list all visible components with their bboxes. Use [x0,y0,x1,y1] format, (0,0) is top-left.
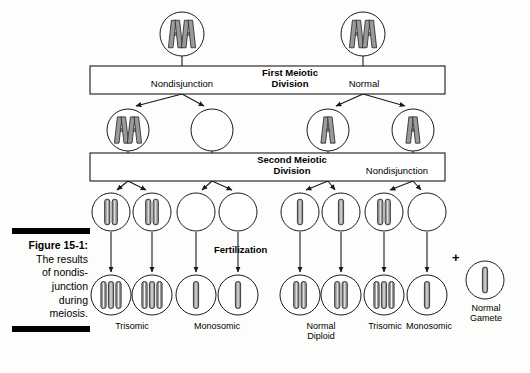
figure-container: First Meiotic Division Second Meiotic Di… [0,0,530,373]
figure-caption-text: Figure 15-1: The results of nondis- junc… [12,234,90,326]
arrow-m1-split-a [136,94,182,106]
cell-g5 [281,193,319,231]
centromere [120,129,123,132]
second-meiotic-division-title: Second Meiotic Division [238,155,346,176]
cell-membrane [160,12,204,56]
first-division-line2: Division [272,78,309,89]
arrow-gamete-split-3b [413,181,421,190]
cell-z1 [91,275,131,315]
outcome-label: Trisomic [115,321,149,331]
figure-caption-block: Figure 15-1: The results of nondis- junc… [12,228,90,332]
cell-m1-c4 [392,109,434,151]
arrow-gamete-split-2a [306,181,328,190]
arrow-m1-split-b [182,94,204,106]
cell-g3 [177,193,215,231]
plus-sign: + [452,251,460,266]
outcome-normal-diploid: Normal Diploid [288,321,354,341]
centromere [187,33,190,36]
first-division-line1: First Meiotic [262,67,318,78]
first-meiotic-division-title: First Meiotic Division [240,68,340,89]
cell-g7 [365,193,403,231]
cell-g1 [92,193,130,231]
normal-gamete-line2: Gamete [470,313,502,323]
caption-line-5: meiosis. [12,307,88,321]
cell-membrane [107,109,149,151]
label-fertilization: Fertilization [214,245,267,256]
cell-z5 [280,275,320,315]
cell-membrane [365,193,403,231]
cell-m1-c3 [307,109,349,151]
outcome-label: Monosomic [406,321,452,331]
label-normal-first: Normal [330,79,398,90]
second-division-line1: Second Meiotic [257,154,327,165]
figure-number: Figure 15-1: [12,239,88,253]
cell-z4 [218,275,258,315]
cell-membrane [92,193,130,231]
caption-line-2: of nondis- [12,266,88,280]
cell-membrane [341,12,385,56]
arrow-gamete-split-3a [390,181,413,190]
outcome-label: Normal [306,321,335,331]
cell-g6 [322,193,360,231]
centromere [133,129,136,132]
cell-z2 [132,275,172,315]
cell-normal-gamete [466,261,504,299]
arrow-m1-split-d [363,94,405,106]
centromere [412,129,415,132]
second-division-line2: Division [274,165,311,176]
caption-line-3: junction [12,280,88,294]
outcome-trisomic-left: Trisomic [99,321,165,331]
cell-membrane [133,193,171,231]
cell-z6 [321,275,361,315]
cell-g8 [408,193,446,231]
normal-gamete-line1: Normal [471,303,500,313]
cell-membrane [219,193,257,231]
cell-membrane [321,275,361,315]
arrow-gamete-split-0a [117,181,128,190]
centromere [327,129,330,132]
cell-membrane [177,193,215,231]
outcome-monosomic-right: Monosomic [396,321,462,331]
cell-parent-right [341,12,385,56]
arrow-gamete-split-2b [328,181,335,190]
label-nondisjunction-second: Nondisjunction [352,166,442,177]
arrow-gamete-split-0b [128,181,146,190]
cell-g2 [133,193,171,231]
outcome-monosomic-left: Monosomic [183,321,251,331]
cell-parent-left [160,12,204,56]
cell-z7 [364,275,404,315]
centromere [174,33,177,36]
label-nondisjunction-first: Nondisjunction [119,79,245,90]
cell-membrane [408,193,446,231]
outcome-label: Monosomic [194,321,240,331]
caption-line-4: during [12,294,88,308]
cell-membrane [191,109,233,151]
cell-m1-c1 [107,109,149,151]
outcome-label-2: Diploid [307,331,335,341]
cell-membrane [280,275,320,315]
cell-m1-c2 [191,109,233,151]
arrow-gamete-split-1b [212,181,232,190]
cell-z8 [407,275,447,315]
cell-g4 [219,193,257,231]
centromere [368,33,371,36]
arrow-m1-split-c [336,94,363,106]
caption-line-1: The results [12,253,88,267]
caption-rule-bottom [12,326,90,332]
centromere [355,33,358,36]
cell-z3 [176,275,216,315]
arrow-gamete-split-1a [202,181,212,190]
